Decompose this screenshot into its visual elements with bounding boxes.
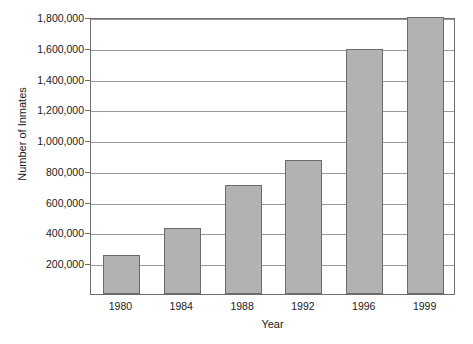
x-axis-title: Year [90, 318, 455, 330]
x-axis-tick-labels: 198019841988199219961999 [90, 300, 455, 314]
y-axis-tick-label: 600,000 [0, 197, 84, 208]
y-axis-tick-labels: 200,000400,000600,000800,0001,000,0001,2… [0, 18, 84, 295]
y-axis-tick-label: 200,000 [0, 259, 84, 270]
x-axis-tick-label: 1988 [212, 300, 272, 312]
x-axis-tick-label: 1996 [334, 300, 394, 312]
y-axis-tick-label: 1,600,000 [0, 43, 84, 54]
bar-1980 [103, 255, 140, 294]
plot-area [90, 18, 455, 295]
y-axis-tick-label: 1,800,000 [0, 13, 84, 24]
x-axis-tick-label: 1980 [90, 300, 150, 312]
bar-1999 [407, 17, 444, 294]
x-axis-tick-label: 1992 [273, 300, 333, 312]
y-axis-tick-label: 400,000 [0, 228, 84, 239]
x-axis-tick-label: 1999 [395, 300, 455, 312]
y-axis-tick-label: 1,000,000 [0, 136, 84, 147]
bar-1992 [285, 160, 322, 294]
bar-1984 [164, 228, 201, 294]
y-axis-tick-label: 1,400,000 [0, 74, 84, 85]
bar-chart-figure: Number of Inmates 200,000400,000600,0008… [0, 0, 473, 344]
y-axis-tick-label: 800,000 [0, 166, 84, 177]
y-axis-tick-label: 1,200,000 [0, 105, 84, 116]
bar-1988 [225, 185, 262, 294]
x-axis-tick-label: 1984 [151, 300, 211, 312]
bar-1996 [346, 49, 383, 294]
bars-layer [91, 19, 454, 294]
